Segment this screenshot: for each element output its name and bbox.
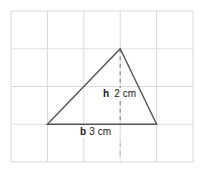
geometry-figure: h2 cm b3 cm [0,0,206,170]
height-value: 2 cm [114,88,136,99]
base-label: b3 cm [79,126,112,138]
base-symbol: b [80,126,86,137]
grid-lines [11,11,193,162]
diagram-canvas [0,0,206,170]
height-symbol: h [103,88,109,99]
height-label: h2 cm [103,88,136,100]
base-value: 3 cm [89,126,111,137]
